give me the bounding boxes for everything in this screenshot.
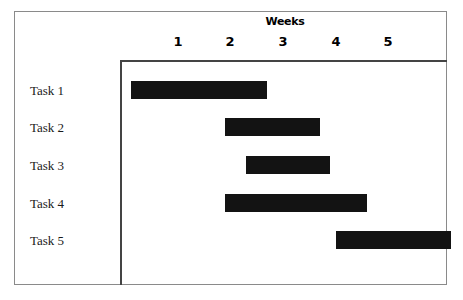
x-tick-label-2: 2 <box>218 34 242 50</box>
task-label-4: Task 4 <box>30 196 115 212</box>
gantt-bar-task-5[interactable] <box>336 231 452 249</box>
task-label-5: Task 5 <box>30 233 115 249</box>
task-label-3: Task 3 <box>30 158 115 174</box>
x-tick-label-1: 1 <box>166 34 190 50</box>
gantt-bar-task-1[interactable] <box>131 81 268 99</box>
gantt-bar-task-2[interactable] <box>225 118 320 136</box>
x-tick-label-5: 5 <box>376 34 400 50</box>
task-label-1: Task 1 <box>30 83 115 99</box>
y-axis-line <box>120 60 122 285</box>
gantt-bar-task-4[interactable] <box>225 194 367 212</box>
gantt-chart-figure: Weeks 1 2 3 4 5 Task 1 Task 2 Task 3 Tas… <box>0 0 463 300</box>
x-axis-line <box>120 60 447 62</box>
gantt-bar-task-3[interactable] <box>246 156 330 174</box>
x-tick-label-3: 3 <box>271 34 295 50</box>
task-label-2: Task 2 <box>30 120 115 136</box>
chart-title: Weeks <box>245 15 325 28</box>
x-tick-label-4: 4 <box>324 34 348 50</box>
